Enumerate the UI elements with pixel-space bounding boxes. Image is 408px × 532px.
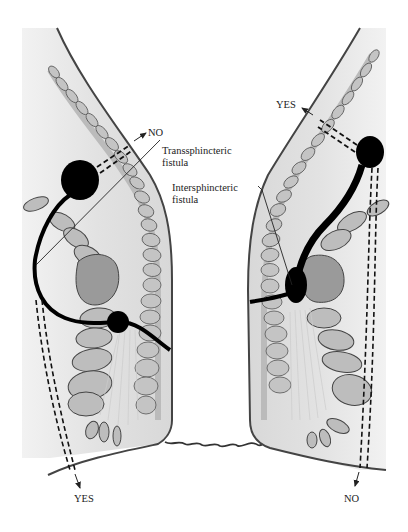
left-tissue-section (22, 28, 172, 488)
label-intersphincteric-2: fistula (172, 194, 199, 205)
anal-verge-line (165, 440, 270, 446)
label-yes-top: YES (276, 99, 296, 110)
label-transsphincteric-1: Transsphincteric (162, 145, 232, 156)
anal-fistula-diagram: NO Transsphincteric fistula Intersphinct… (0, 0, 408, 532)
label-intersphincteric-1: Intersphincteric (172, 182, 238, 193)
label-transsphincteric-2: fistula (162, 157, 189, 168)
right-tissue-section (248, 28, 391, 486)
label-no-top: NO (148, 127, 164, 138)
label-yes-bottom: YES (74, 493, 94, 504)
label-no-bottom: NO (344, 493, 360, 504)
